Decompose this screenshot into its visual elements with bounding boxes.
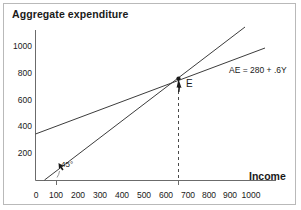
y-tick-label: 800	[6, 68, 32, 78]
y-tick-label: 400	[6, 121, 32, 131]
x-tick-label: 1000	[239, 190, 263, 200]
x-tick-label: 100	[44, 190, 68, 200]
y-tick-label: 1000	[6, 41, 32, 51]
x-axis-title: Income	[249, 170, 286, 182]
x-tick-label: 400	[110, 190, 134, 200]
angle-arc	[57, 171, 60, 178]
y-tick-label: 200	[6, 148, 32, 158]
y-tick-label: 600	[6, 95, 32, 105]
aggregate-expenditure-line	[36, 48, 266, 134]
x-tick-label: 500	[132, 190, 156, 200]
forty-five-degree-line	[45, 27, 246, 180]
x-tick-label: 200	[66, 190, 90, 200]
x-tick-label: 300	[88, 190, 112, 200]
equilibrium-point-label: E	[186, 78, 193, 89]
x-tick-label: 600	[154, 190, 178, 200]
forty-five-degree-label: 45°	[61, 160, 73, 169]
chart-title: Aggregate expenditure	[12, 8, 128, 20]
ae-equation-label: AE = 280 + .6Y	[229, 65, 287, 75]
